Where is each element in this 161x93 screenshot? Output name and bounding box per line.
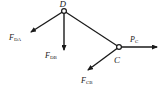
- joint-c-icon: [117, 45, 122, 50]
- force-label-fdb: FDB: [44, 51, 58, 60]
- force-label-pc: PC: [129, 35, 139, 44]
- free-body-diagram: D C FDA FDB PC FCB: [0, 0, 161, 93]
- member-dc: [64, 11, 119, 47]
- force-arrow-fda: [31, 11, 64, 32]
- force-label-fda: FDA: [8, 33, 22, 42]
- joint-d-icon: [62, 9, 67, 14]
- node-label-c: C: [114, 55, 121, 65]
- node-label-d: D: [59, 0, 67, 9]
- force-label-fcb: FCB: [80, 76, 93, 85]
